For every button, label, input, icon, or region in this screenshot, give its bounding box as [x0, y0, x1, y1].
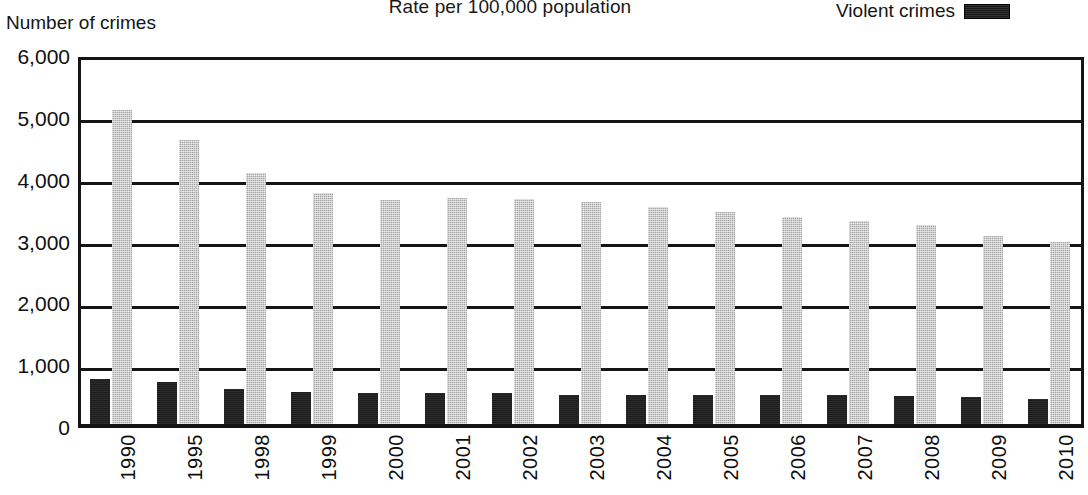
- bar-group: [425, 60, 467, 424]
- x-axis-tick-labels: 1990199519981999200020012002200320042005…: [78, 432, 1084, 495]
- bar-violent-2002: [492, 393, 512, 424]
- x-tick-label-2001: 2001: [452, 434, 475, 481]
- x-tick-label-1999: 1999: [318, 434, 341, 481]
- chart-legend: Violent crimes: [836, 0, 1010, 22]
- bar-violent-2010: [1028, 399, 1048, 424]
- bar-property-2004: [648, 207, 668, 424]
- bar-violent-2007: [827, 395, 847, 424]
- x-tick-label-1995: 1995: [184, 434, 207, 481]
- bar-property-2006: [782, 217, 802, 424]
- bar-group: [626, 60, 668, 424]
- bar-group: [1028, 60, 1070, 424]
- bar-property-1998: [246, 173, 266, 424]
- x-tick-label-2010: 2010: [1055, 434, 1078, 481]
- bar-property-2010: [1050, 242, 1070, 424]
- bar-group: [492, 60, 534, 424]
- bar-group: [358, 60, 400, 424]
- bar-violent-2004: [626, 395, 646, 424]
- x-tick-label-2006: 2006: [787, 434, 810, 481]
- bar-property-2007: [849, 221, 869, 424]
- legend-label-violent-crimes: Violent crimes: [836, 0, 955, 22]
- bar-violent-1999: [291, 392, 311, 424]
- bar-group: [693, 60, 735, 424]
- bar-property-2003: [581, 202, 601, 424]
- bar-violent-1990: [90, 379, 110, 424]
- bar-violent-1995: [157, 382, 177, 424]
- plot-inner: [81, 60, 1081, 424]
- bar-group: [90, 60, 132, 424]
- chart-title: Rate per 100,000 population: [300, 0, 720, 18]
- y-tick-label-2000: 2,000: [0, 292, 70, 316]
- bar-group: [157, 60, 199, 424]
- x-tick-label-2007: 2007: [854, 434, 877, 481]
- y-axis-tick-labels: 6,0005,0004,0003,0002,0001,0000: [0, 57, 70, 428]
- x-tick-label-2008: 2008: [921, 434, 944, 481]
- bar-property-1999: [313, 193, 333, 425]
- bar-group: [559, 60, 601, 424]
- bar-group: [224, 60, 266, 424]
- x-tick-label-2005: 2005: [720, 434, 743, 481]
- y-axis-caption: Number of crimes: [6, 12, 156, 34]
- y-tick-label-6000: 6,000: [0, 45, 70, 69]
- y-tick-label-0: 0: [0, 416, 70, 440]
- bar-violent-1998: [224, 389, 244, 424]
- bar-violent-2003: [559, 395, 579, 424]
- bar-violent-2008: [894, 396, 914, 424]
- bar-violent-2000: [358, 393, 378, 424]
- bar-group: [961, 60, 1003, 424]
- bar-property-2002: [514, 199, 534, 424]
- bar-group: [291, 60, 333, 424]
- x-tick-label-2003: 2003: [586, 434, 609, 481]
- legend-swatch-violent-crimes: [964, 4, 1010, 19]
- bar-violent-2005: [693, 395, 713, 424]
- x-tick-label-2000: 2000: [385, 434, 408, 481]
- bar-property-2000: [380, 200, 400, 424]
- bar-violent-2001: [425, 393, 445, 424]
- plot-area: [78, 57, 1084, 428]
- bar-group: [760, 60, 802, 424]
- bar-property-2005: [715, 212, 735, 424]
- y-tick-label-4000: 4,000: [0, 169, 70, 193]
- bars-layer: [81, 60, 1081, 424]
- y-tick-label-5000: 5,000: [0, 107, 70, 131]
- bar-group: [827, 60, 869, 424]
- x-tick-label-1990: 1990: [117, 434, 140, 481]
- bar-property-2008: [916, 225, 936, 424]
- x-tick-label-2009: 2009: [988, 434, 1011, 481]
- x-tick-label-2002: 2002: [519, 434, 542, 481]
- x-tick-label-2004: 2004: [653, 434, 676, 481]
- bar-property-2009: [983, 236, 1003, 424]
- bar-property-2001: [447, 198, 467, 424]
- y-tick-label-1000: 1,000: [0, 354, 70, 378]
- bar-property-1995: [179, 140, 199, 424]
- bar-violent-2009: [961, 397, 981, 424]
- bar-property-1990: [112, 110, 132, 424]
- x-tick-label-1998: 1998: [251, 434, 274, 481]
- y-tick-label-3000: 3,000: [0, 231, 70, 255]
- bar-group: [894, 60, 936, 424]
- bar-violent-2006: [760, 395, 780, 424]
